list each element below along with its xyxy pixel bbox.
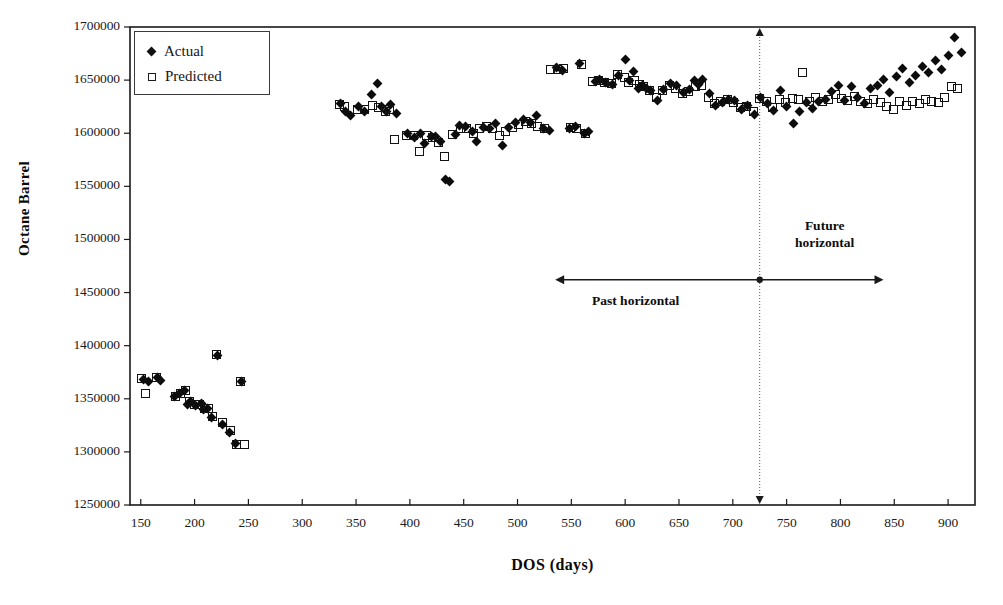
annotation-future-line2: horizontal <box>795 235 854 252</box>
data-point-predicted <box>794 95 803 104</box>
x-tick-label: 400 <box>382 515 438 531</box>
data-point-predicted <box>697 81 706 90</box>
data-point-predicted <box>440 152 449 161</box>
data-point-predicted <box>540 124 549 133</box>
x-tick-label: 600 <box>597 515 653 531</box>
data-point-predicted <box>889 105 898 114</box>
data-point-predicted <box>208 412 217 421</box>
y-tick-label: 1350000 <box>34 390 120 406</box>
data-point-predicted <box>940 93 949 102</box>
chart-legend: Actual Predicted <box>134 31 270 95</box>
data-point-predicted <box>559 64 568 73</box>
data-point-predicted <box>212 350 221 359</box>
data-point-predicted <box>226 426 235 435</box>
y-tick-label: 1600000 <box>34 124 120 140</box>
data-point-predicted <box>577 60 586 69</box>
x-tick-label: 650 <box>651 515 707 531</box>
legend-label-actual: Actual <box>164 43 204 60</box>
y-tick-label: 1450000 <box>34 284 120 300</box>
data-point-predicted <box>798 68 807 77</box>
x-tick-label: 550 <box>543 515 599 531</box>
scatter-chart-figure: Octane Barrel DOS (days) 170000016500001… <box>0 0 1003 605</box>
data-point-predicted <box>409 131 418 140</box>
x-tick-label: 850 <box>866 515 922 531</box>
data-point-predicted <box>749 107 758 116</box>
filled-diamond-icon <box>147 47 157 57</box>
y-tick-label: 1550000 <box>34 177 120 193</box>
data-point-predicted <box>768 103 777 112</box>
data-point-predicted <box>581 129 590 138</box>
data-point-predicted <box>152 373 161 382</box>
legend-entry-predicted: Predicted <box>148 68 222 85</box>
open-square-icon <box>148 73 156 81</box>
annotation-past-horizontal: Past horizontal <box>592 293 679 310</box>
x-tick-label: 750 <box>759 515 815 531</box>
y-tick-label: 1500000 <box>34 230 120 246</box>
x-tick-label: 900 <box>920 515 976 531</box>
data-point-predicted <box>141 389 150 398</box>
x-tick-label: 250 <box>220 515 276 531</box>
x-tick-label: 800 <box>812 515 868 531</box>
data-point-predicted <box>390 135 399 144</box>
data-point-predicted <box>137 374 146 383</box>
data-point-predicted <box>953 84 962 93</box>
data-point-predicted <box>236 377 245 386</box>
annotation-future-horizontal: Future horizontal <box>795 218 854 252</box>
data-point-predicted <box>385 105 394 114</box>
x-tick-label: 500 <box>490 515 546 531</box>
annotation-future-line1: Future <box>795 218 854 235</box>
data-point-predicted <box>340 102 349 111</box>
y-tick-label: 1700000 <box>34 18 120 34</box>
y-tick-label: 1250000 <box>34 496 120 512</box>
y-tick-label: 1650000 <box>34 71 120 87</box>
x-tick-label: 350 <box>328 515 384 531</box>
x-tick-label: 450 <box>436 515 492 531</box>
y-tick-label: 1300000 <box>34 443 120 459</box>
legend-entry-actual: Actual <box>148 43 204 60</box>
data-point-predicted <box>415 147 424 156</box>
data-point-predicted <box>607 79 616 88</box>
data-point-predicted <box>434 138 443 147</box>
x-tick-label: 150 <box>113 515 169 531</box>
y-tick-label: 1400000 <box>34 337 120 353</box>
data-point-predicted <box>240 440 249 449</box>
x-tick-label: 200 <box>167 515 223 531</box>
data-point-predicted <box>181 386 190 395</box>
x-tick-label: 300 <box>274 515 330 531</box>
x-tick-label: 700 <box>705 515 761 531</box>
legend-label-predicted: Predicted <box>165 68 222 85</box>
